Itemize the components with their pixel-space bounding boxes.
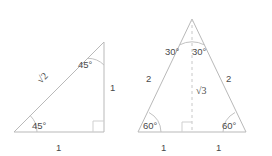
- right-side-label-2: 2: [226, 73, 231, 84]
- altitude-label-sqrt3: √3: [196, 85, 207, 96]
- angle-label-bottomleft-60: 60°: [143, 120, 158, 131]
- isosceles-right-triangle-group: √2 45° 1 45° 1: [14, 42, 115, 153]
- left-side-label-2: 2: [146, 73, 151, 84]
- isosceles-right-triangle-outline: [14, 42, 104, 132]
- geometry-figure-canvas: √2 45° 1 45° 1 30° 30° 2 2 √3: [0, 0, 272, 156]
- right-angle-marker-left-triangle: [93, 121, 104, 132]
- base-right-half-label-1: 1: [216, 142, 221, 153]
- vertical-leg-label-1: 1: [110, 82, 115, 93]
- equilateral-triangle-group: 30° 30° 2 2 √3 60° 60° 1 1: [138, 19, 246, 153]
- angle-label-bottomright-60: 60°: [222, 120, 237, 131]
- triangles-diagram: √2 45° 1 45° 1 30° 30° 2 2 √3: [0, 0, 272, 156]
- base-left-half-label-1: 1: [161, 142, 166, 153]
- angle-label-bottomleft-45: 45°: [32, 120, 47, 131]
- hypotenuse-label-sqrt2: √2: [35, 70, 50, 85]
- angle-label-apex-right-30: 30°: [192, 46, 207, 57]
- base-leg-label-1: 1: [56, 142, 61, 153]
- right-angle-marker-altitude-foot: [182, 122, 192, 132]
- angle-label-top-45: 45°: [78, 59, 93, 70]
- angle-label-apex-left-30: 30°: [165, 46, 180, 57]
